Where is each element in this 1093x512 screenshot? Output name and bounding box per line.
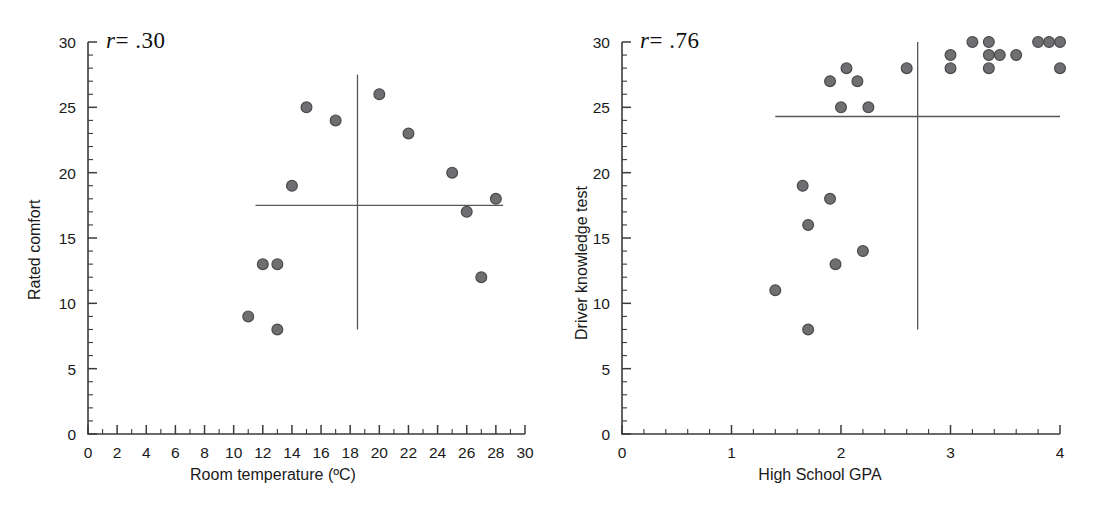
data-point: [803, 324, 814, 335]
data-point: [994, 50, 1005, 61]
y-tick-label: 0: [601, 426, 610, 443]
scatter-panel-right: 05101520253001234 r= .76 High School GPA…: [547, 0, 1093, 512]
data-point: [830, 259, 841, 270]
y-tick-label: 25: [59, 99, 76, 116]
x-tick-label: 30: [516, 444, 534, 461]
scatterplot-figure: 051015202530024681012141618202224262830 …: [0, 0, 1093, 512]
r-value-left: = .30: [115, 28, 165, 53]
data-point: [272, 324, 283, 335]
y-tick-label: 10: [593, 295, 611, 312]
y-tick-label: 15: [593, 230, 610, 247]
data-point: [825, 193, 836, 204]
data-point: [490, 193, 501, 204]
y-axis-title-right: Driver knowledge test: [573, 186, 591, 340]
data-point: [836, 102, 847, 113]
x-tick-label: 26: [458, 444, 475, 461]
data-point: [901, 63, 912, 74]
y-axis-title-left: Rated comfort: [26, 200, 44, 300]
data-point: [243, 311, 254, 322]
axis-lines: [622, 42, 1060, 434]
data-point: [863, 102, 874, 113]
axis-lines: [88, 42, 525, 434]
x-axis-title-left: Room temperature (ºC): [0, 466, 546, 484]
x-tick-label: 24: [429, 444, 447, 461]
data-point: [287, 180, 298, 191]
data-point: [945, 50, 956, 61]
y-tick-label: 0: [67, 426, 76, 443]
data-point: [803, 220, 814, 231]
x-tick-label: 1: [727, 444, 736, 461]
x-tick-label: 3: [946, 444, 955, 461]
x-tick-label: 6: [171, 444, 180, 461]
data-point: [841, 63, 852, 74]
data-point: [330, 115, 341, 126]
x-tick-label: 4: [142, 444, 151, 461]
x-tick-label: 28: [487, 444, 504, 461]
x-tick-label: 18: [342, 444, 359, 461]
data-point: [770, 285, 781, 296]
data-point: [983, 37, 994, 48]
data-point: [1033, 37, 1044, 48]
r-value-right: = .76: [649, 28, 699, 53]
x-tick-label: 16: [312, 444, 329, 461]
data-point: [983, 50, 994, 61]
data-point: [1011, 50, 1022, 61]
y-tick-label: 5: [67, 361, 76, 378]
x-tick-label: 22: [400, 444, 417, 461]
x-tick-label: 12: [254, 444, 271, 461]
scatter-plot-right: 05101520253001234: [547, 0, 1093, 512]
x-tick-label: 20: [371, 444, 389, 461]
data-point: [983, 63, 994, 74]
data-point: [1055, 37, 1066, 48]
x-tick-label: 8: [200, 444, 209, 461]
scatter-plot-left: 051015202530024681012141618202224262830: [0, 0, 546, 512]
data-point: [476, 272, 487, 283]
data-point: [461, 206, 472, 217]
x-tick-label: 0: [618, 444, 627, 461]
data-point: [852, 76, 863, 87]
y-tick-label: 30: [59, 34, 77, 51]
data-point: [301, 102, 312, 113]
x-axis-title-right: High School GPA: [547, 466, 1093, 484]
x-tick-label: 14: [283, 444, 301, 461]
data-point: [858, 246, 869, 257]
data-point: [945, 63, 956, 74]
data-point: [403, 128, 414, 139]
data-point: [272, 259, 283, 270]
y-tick-label: 25: [593, 99, 610, 116]
correlation-annotation-right: r= .76: [640, 28, 699, 54]
scatter-panel-left: 051015202530024681012141618202224262830 …: [0, 0, 546, 512]
data-point: [374, 89, 385, 100]
y-tick-label: 15: [59, 230, 76, 247]
x-tick-label: 10: [225, 444, 243, 461]
x-tick-label: 2: [113, 444, 122, 461]
correlation-annotation-left: r= .30: [106, 28, 165, 54]
data-point: [257, 259, 268, 270]
data-point: [825, 76, 836, 87]
data-point: [1044, 37, 1055, 48]
y-tick-label: 20: [593, 165, 611, 182]
y-tick-label: 5: [601, 361, 610, 378]
y-tick-label: 10: [59, 295, 77, 312]
data-point: [967, 37, 978, 48]
data-point: [447, 167, 458, 178]
x-tick-label: 4: [1056, 444, 1065, 461]
data-point: [1055, 63, 1066, 74]
x-tick-label: 0: [84, 444, 93, 461]
x-tick-label: 2: [837, 444, 846, 461]
y-tick-label: 30: [593, 34, 611, 51]
y-tick-label: 20: [59, 165, 77, 182]
data-point: [797, 180, 808, 191]
